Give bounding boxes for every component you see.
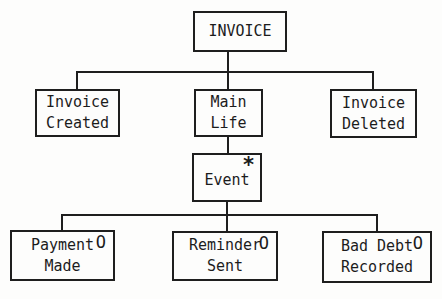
- selection-marker-icon: O: [259, 235, 269, 251]
- node-reminder-sent: O Reminder Sent: [172, 231, 278, 281]
- node-event: * Event: [192, 153, 262, 202]
- connector-bus1-to-main-life: [227, 72, 229, 89]
- connector-bus2-to-bad-debt: [376, 215, 378, 231]
- connector-bus2: [61, 214, 378, 216]
- iteration-marker-icon: *: [242, 156, 255, 175]
- connector-bus1: [76, 71, 374, 73]
- node-bad-debt-line1: Bad Debt: [341, 236, 413, 257]
- node-bad-debt-line2: Recorded: [341, 257, 413, 278]
- jsd-structure-diagram: INVOICE Invoice Created Main Life Invoic…: [0, 0, 442, 299]
- node-invoice-created-line2: Created: [46, 113, 109, 134]
- node-main-life-line1: Main: [210, 92, 246, 113]
- connector-bus1-to-deleted: [372, 72, 374, 89]
- connector-invoice-to-bus1: [227, 52, 229, 72]
- connector-main-life-to-event: [227, 137, 229, 153]
- node-payment-made: O Payment Made: [10, 230, 115, 281]
- node-main-life: Main Life: [194, 89, 263, 137]
- connector-bus1-to-created: [76, 72, 78, 89]
- node-reminder-sent-line1: Reminder: [189, 235, 261, 256]
- node-invoice-deleted-line1: Invoice: [342, 93, 405, 114]
- node-payment-made-line2: Made: [44, 256, 80, 277]
- node-invoice: INVOICE: [193, 11, 287, 52]
- node-invoice-created-line1: Invoice: [46, 92, 109, 113]
- connector-bus2-to-reminder: [226, 215, 228, 231]
- connector-bus2-to-payment: [61, 215, 63, 230]
- selection-marker-icon: O: [413, 235, 423, 251]
- node-bad-debt-recorded: O Bad Debt Recorded: [322, 231, 432, 283]
- selection-marker-icon: O: [96, 234, 106, 250]
- node-invoice-created: Invoice Created: [35, 89, 120, 137]
- node-payment-made-line1: Payment: [31, 235, 94, 256]
- node-reminder-sent-line2: Sent: [207, 256, 243, 277]
- node-invoice-label: INVOICE: [208, 21, 271, 42]
- node-invoice-deleted-line2: Deleted: [342, 114, 405, 135]
- node-main-life-line2: Life: [210, 113, 246, 134]
- node-invoice-deleted: Invoice Deleted: [330, 89, 417, 138]
